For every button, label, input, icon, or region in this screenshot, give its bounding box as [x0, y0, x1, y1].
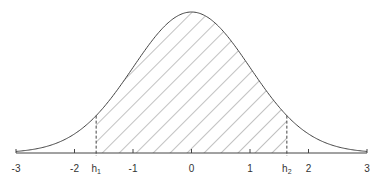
- normal-distribution-chart: -3-2-10123 h1h2: [0, 0, 380, 185]
- tick-label: 2: [306, 163, 312, 174]
- tick-label: -1: [129, 163, 138, 174]
- tick-label: -3: [12, 163, 21, 174]
- tick-label: 3: [364, 163, 370, 174]
- tick-label: 0: [189, 163, 195, 174]
- tick-label: 1: [247, 163, 253, 174]
- marker-label: h2: [282, 163, 292, 175]
- tick-label: -2: [70, 163, 79, 174]
- marker-label: h1: [91, 163, 101, 175]
- shaded-area: [0, 0, 380, 160]
